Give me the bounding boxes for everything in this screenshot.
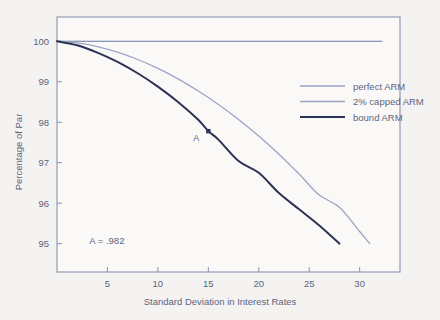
x-tick-label: 15 xyxy=(203,278,214,289)
y-tick-label: 96 xyxy=(38,198,49,209)
legend-label: 2% capped ARM xyxy=(353,96,424,107)
chart-figure: 51015202530 9596979899100 AA = .982 perf… xyxy=(0,0,440,320)
annotation-text: A = .982 xyxy=(89,235,124,246)
legend-label: perfect ARM xyxy=(353,81,405,92)
y-axis-title: Percentage of Par xyxy=(13,114,24,191)
y-tick-label: 98 xyxy=(38,117,49,128)
legend-label: bound ARM xyxy=(353,112,403,123)
x-tick-label: 5 xyxy=(105,278,110,289)
point-marker-label: A xyxy=(193,133,199,143)
y-tick-label: 99 xyxy=(38,76,49,87)
point-marker xyxy=(206,129,210,133)
x-tick-label: 10 xyxy=(153,278,164,289)
y-tick-label: 97 xyxy=(38,157,49,168)
x-tick-label: 20 xyxy=(253,278,264,289)
x-tick-label: 25 xyxy=(304,278,315,289)
x-tick-label: 30 xyxy=(354,278,365,289)
x-axis-title: Standard Deviation in Interest Rates xyxy=(144,296,297,307)
line-chart: 51015202530 9596979899100 AA = .982 perf… xyxy=(0,0,440,320)
y-tick-label: 95 xyxy=(38,238,49,249)
y-tick-label: 100 xyxy=(33,36,49,47)
